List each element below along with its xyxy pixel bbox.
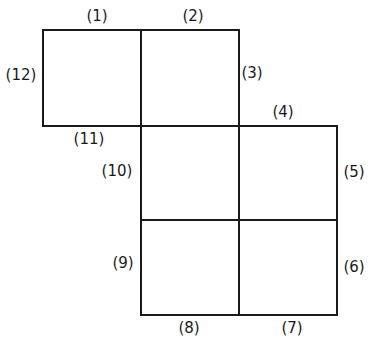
edge-label-12: (12) (6, 66, 37, 84)
edge-label-7: (7) (281, 319, 302, 337)
square-top-right (141, 30, 239, 126)
edge-label-11: (11) (74, 130, 105, 148)
edge-label-5: (5) (343, 163, 364, 181)
square-middle-left (141, 126, 239, 220)
edge-label-10: (10) (102, 162, 133, 180)
edge-label-2: (2) (182, 7, 203, 25)
edge-label-9: (9) (112, 254, 133, 272)
squares-net (0, 0, 370, 341)
square-middle-right (239, 126, 337, 220)
square-top-left (43, 30, 141, 126)
square-bottom-left (141, 220, 239, 315)
edge-label-1: (1) (86, 7, 107, 25)
edge-label-3: (3) (241, 64, 262, 82)
square-bottom-right (239, 220, 337, 315)
edge-label-6: (6) (343, 258, 364, 276)
edge-label-8: (8) (178, 319, 199, 337)
edge-label-4: (4) (272, 103, 293, 121)
